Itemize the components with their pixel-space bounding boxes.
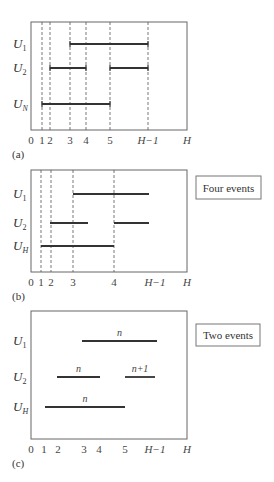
x-tick-label: 5 bbox=[107, 134, 113, 146]
x-tick-label: 3 bbox=[70, 276, 76, 288]
panel-b: 01234H−1H(b)U1U2UHFour events bbox=[12, 170, 261, 303]
x-tick-label: H bbox=[182, 134, 192, 146]
x-tick-label: H−1 bbox=[144, 276, 166, 288]
x-tick-label: 4 bbox=[83, 134, 89, 146]
panel-caption: (c) bbox=[12, 457, 25, 470]
row-label: U1 bbox=[13, 36, 26, 53]
panel-c: 012345H−1H(c)U1nU2nn+1UHnTwo events bbox=[12, 311, 260, 470]
row-label: U2 bbox=[13, 60, 26, 77]
interval-label: n bbox=[117, 327, 122, 338]
row-label: U2 bbox=[13, 215, 26, 232]
x-tick-label: 1 bbox=[38, 276, 44, 288]
x-tick-label: 5 bbox=[122, 443, 128, 455]
row-label: UH bbox=[13, 238, 29, 255]
x-tick-label: 3 bbox=[67, 134, 73, 146]
legend-text: Four events bbox=[203, 182, 255, 194]
x-tick-label: 3 bbox=[81, 443, 87, 455]
x-tick-label: H bbox=[182, 276, 192, 288]
x-tick-label: 0 bbox=[28, 276, 34, 288]
row-label: U1 bbox=[13, 333, 26, 350]
panel-a: 012345H−1H(a)U1U2UN bbox=[12, 22, 192, 161]
x-tick-label: 1 bbox=[39, 134, 45, 146]
x-tick-label: 1 bbox=[41, 443, 47, 455]
x-tick-label: H−1 bbox=[144, 443, 166, 455]
x-tick-label: 0 bbox=[28, 134, 34, 146]
interval-label: n bbox=[76, 363, 81, 374]
interval-diagram: 012345H−1H(a)U1U2UN01234H−1H(b)U1U2UHFou… bbox=[0, 0, 274, 482]
panel-caption: (b) bbox=[12, 290, 25, 303]
panel-frame bbox=[31, 22, 187, 130]
x-tick-label: 2 bbox=[55, 443, 61, 455]
panel-frame bbox=[31, 170, 187, 272]
legend-text: Two events bbox=[203, 329, 253, 341]
x-tick-label: H bbox=[182, 443, 192, 455]
panel-frame bbox=[31, 311, 187, 439]
row-label: U1 bbox=[13, 186, 26, 203]
x-tick-label: 0 bbox=[28, 443, 34, 455]
row-label: U2 bbox=[13, 369, 26, 386]
panel-caption: (a) bbox=[12, 148, 25, 161]
interval-label: n bbox=[83, 393, 88, 404]
x-tick-label: 4 bbox=[96, 443, 102, 455]
x-tick-label: 2 bbox=[47, 134, 53, 146]
x-tick-label: 2 bbox=[48, 276, 54, 288]
row-label: UH bbox=[13, 399, 29, 416]
x-tick-label: 4 bbox=[111, 276, 117, 288]
interval-label: n+1 bbox=[132, 363, 149, 374]
x-tick-label: H−1 bbox=[137, 134, 159, 146]
row-label: UN bbox=[13, 96, 28, 113]
